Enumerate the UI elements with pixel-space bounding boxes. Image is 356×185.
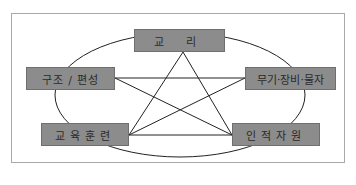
node-doctrine: 교 리 xyxy=(134,29,225,52)
node-weapons-label: 무기·장비·물자 xyxy=(257,71,324,87)
pentagram-star xyxy=(115,52,245,135)
connector-lines xyxy=(0,0,356,185)
node-human-resources-label: 인적자원 xyxy=(246,127,306,143)
node-doctrine-label: 교 리 xyxy=(154,33,205,49)
node-structure-label: 구조 / 편성 xyxy=(42,71,100,87)
node-education-training: 교육훈련 xyxy=(41,123,129,146)
node-human-resources: 인적자원 xyxy=(232,123,320,146)
node-structure-organization: 구조 / 편성 xyxy=(26,67,115,90)
node-weapons-equipment-materiel: 무기·장비·물자 xyxy=(245,67,336,90)
node-education-label: 교육훈련 xyxy=(55,127,115,143)
